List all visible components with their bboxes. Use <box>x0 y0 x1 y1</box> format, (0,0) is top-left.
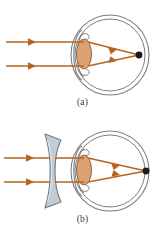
lower-incoming-ray-arrowhead <box>26 178 34 185</box>
crystalline-lens <box>77 39 92 69</box>
panel-a-caption: (a) <box>0 97 165 107</box>
focal-point-dot <box>136 52 143 59</box>
upper-incoming-ray-arrowhead <box>28 38 36 45</box>
panel-b-caption: (b) <box>0 214 165 224</box>
upper-incoming-ray-arrowhead <box>26 154 34 161</box>
iris-upper-hook <box>79 34 89 40</box>
corrective-concave-lens <box>45 134 61 208</box>
upper-refracted-ray <box>88 42 139 55</box>
focal-point-dot <box>143 168 150 175</box>
crystalline-lens <box>77 155 92 185</box>
upper-refracted-ray <box>88 158 146 171</box>
lower-incoming-ray-arrowhead <box>28 62 36 69</box>
iris-upper-hook <box>79 150 89 156</box>
figure-myopia-correction: (a) <box>0 0 165 233</box>
